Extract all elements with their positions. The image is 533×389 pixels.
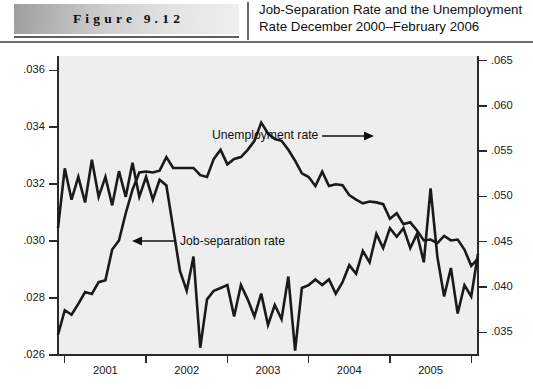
figure-number-banner: Figure 9.12: [14, 4, 239, 34]
figure-title-line-2: Rate December 2000–February 2006: [259, 18, 527, 35]
figure-title: Job-Separation Rate and the Unemployment…: [259, 1, 527, 35]
job-separation-rate-line: [58, 160, 478, 351]
figure-title-line-1: Job-Separation Rate and the Unemployment: [259, 1, 527, 18]
figure-number-label: Figure 9.12: [14, 4, 239, 34]
banner-underline: [14, 36, 239, 38]
job-separation-rate-annotation: Job-separation rate: [180, 234, 285, 248]
chart-area: .026.028.030.032.034.036 .035.040.045.05…: [0, 44, 533, 389]
header-vertical-divider: [247, 2, 249, 40]
unemployment-rate-annotation: Unemployment rate: [212, 128, 318, 142]
figure-header: Figure 9.12 Job-Separation Rate and the …: [0, 0, 533, 44]
unemployment-arrow: [322, 132, 374, 141]
job-separation-arrow: [132, 237, 176, 246]
series-lines: [0, 44, 533, 389]
unemployment-rate-line: [58, 123, 478, 335]
figure-root: Figure 9.12 Job-Separation Rate and the …: [0, 0, 533, 389]
header-underline: [0, 41, 533, 43]
